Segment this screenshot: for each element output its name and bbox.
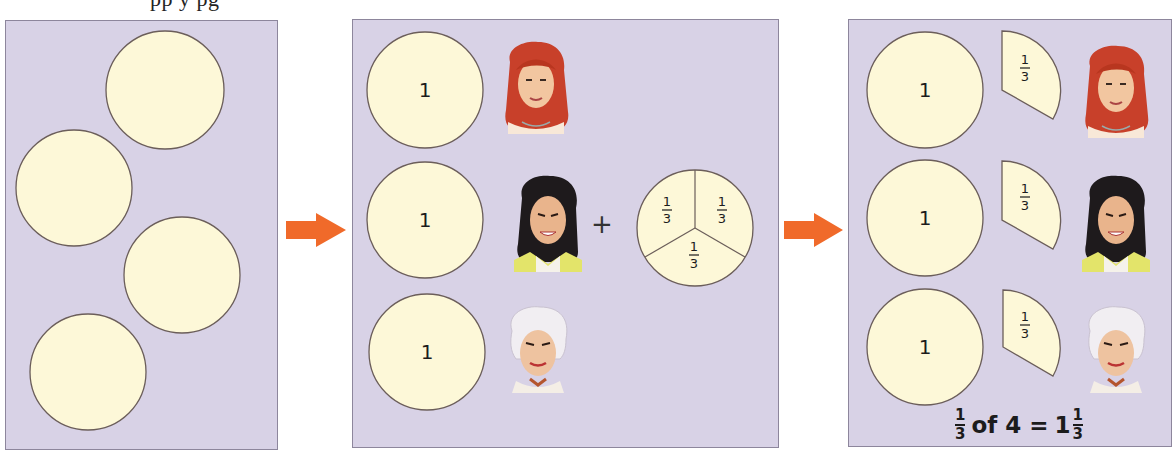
- whole-circle: [30, 314, 146, 430]
- fraction-numerator: 1: [663, 194, 671, 209]
- diagram-canvas: 1 1 1 + 1 3 1 3 1 3 1 1 1: [0, 0, 1174, 458]
- fraction-numerator: 1: [955, 408, 965, 423]
- whole-circle: [106, 31, 224, 149]
- fraction-denominator: 3: [1021, 326, 1029, 341]
- caption-result-fraction: 1 3: [1073, 408, 1083, 442]
- whole-circle: [16, 130, 132, 246]
- caption-text: of 4 =: [971, 412, 1048, 438]
- dark-haired-woman-icon: [1082, 176, 1150, 272]
- caption-whole: 1: [1055, 412, 1071, 438]
- fraction-numerator: 1: [690, 239, 698, 254]
- fraction-denominator: 3: [690, 256, 698, 271]
- panel-1-circles: [16, 31, 240, 430]
- whole-label: 1: [919, 335, 932, 359]
- fraction-denominator: 3: [1021, 198, 1029, 213]
- whole-circle: [124, 217, 240, 333]
- fraction-numerator: 1: [1021, 52, 1029, 67]
- fraction-denominator: 3: [1073, 427, 1083, 442]
- whole-label: 1: [421, 340, 434, 364]
- fraction-denominator: 3: [955, 427, 965, 442]
- whole-label: 1: [419, 78, 432, 102]
- white-haired-man-icon: [511, 307, 567, 393]
- arrow-right-icon: [784, 213, 843, 247]
- fraction-denominator: 3: [1021, 69, 1029, 84]
- caption-fraction: 1 3: [955, 408, 965, 442]
- result-caption: 1 3 of 4 = 1 1 3: [955, 408, 1083, 442]
- whole-label: 1: [919, 78, 932, 102]
- third-wedge: [1003, 290, 1060, 376]
- whole-label: 1: [419, 208, 432, 232]
- split-pie: 1 3 1 3 1 3: [637, 170, 753, 286]
- red-haired-girl-icon: [1085, 46, 1148, 138]
- fraction-denominator: 3: [718, 211, 726, 226]
- whole-label: 1: [919, 206, 932, 230]
- fraction-numerator: 1: [718, 194, 726, 209]
- third-wedge: [1002, 161, 1061, 249]
- fraction-numerator: 1: [1021, 181, 1029, 196]
- fraction-numerator: 1: [1073, 408, 1083, 423]
- fraction-numerator: 1: [1021, 309, 1029, 324]
- red-haired-girl-icon: [505, 42, 568, 134]
- third-wedge: [1002, 31, 1061, 119]
- dark-haired-woman-icon: [514, 176, 582, 272]
- fraction-denominator: 3: [663, 211, 671, 226]
- panel-3-wedges: [1002, 31, 1061, 376]
- white-haired-man-icon: [1089, 307, 1145, 393]
- plus-sign: +: [591, 209, 613, 239]
- arrow-right-icon: [286, 213, 346, 247]
